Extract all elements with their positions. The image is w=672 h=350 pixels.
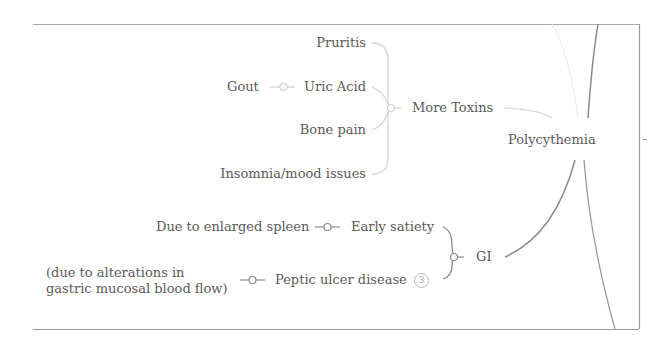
peptic-ulcer-count-badge[interactable]: 3 [414, 273, 429, 288]
root-branch-up [588, 24, 598, 118]
faint-branch [552, 24, 578, 118]
node-due-to-enlarged-spleen[interactable]: Due to enlarged spleen [156, 219, 309, 235]
bracket-insomnia [372, 108, 394, 174]
root-node-polycythemia[interactable]: Polycythemia [508, 132, 596, 148]
node-gastric-mucosal-blood-flow[interactable]: (due to alterations in gastric mucosal b… [46, 265, 232, 297]
bracket-early-satiety [443, 227, 458, 257]
node-pruritis[interactable]: Pruritis [310, 35, 366, 51]
peptic-collapse-icon[interactable] [249, 277, 256, 284]
uric-acid-collapse-icon[interactable] [280, 84, 287, 91]
root-to-more-toxins [505, 108, 552, 118]
node-peptic-ulcer-disease[interactable]: Peptic ulcer disease [275, 272, 407, 288]
node-gi[interactable]: GI [476, 249, 492, 265]
gi-collapse-icon[interactable] [451, 254, 458, 261]
bracket-pruritis [372, 43, 394, 108]
node-gout[interactable]: Gout [227, 79, 259, 95]
node-early-satiety[interactable]: Early satiety [351, 219, 434, 235]
early-satiety-collapse-icon[interactable] [324, 224, 331, 231]
root-to-gi [505, 160, 575, 257]
node-insomnia-mood-issues[interactable]: Insomnia/mood issues [200, 166, 366, 182]
node-uric-acid[interactable]: Uric Acid [300, 79, 366, 95]
bracket-bone-pain [372, 112, 388, 130]
mindmap-canvas: Polycythemia More Toxins Pruritis Uric A… [0, 0, 672, 350]
node-more-toxins[interactable]: More Toxins [412, 100, 493, 116]
more-toxins-collapse-icon[interactable] [388, 105, 395, 112]
node-bone-pain[interactable]: Bone pain [290, 122, 366, 138]
bracket-uric-acid [372, 87, 388, 104]
root-branch-down [584, 160, 615, 329]
